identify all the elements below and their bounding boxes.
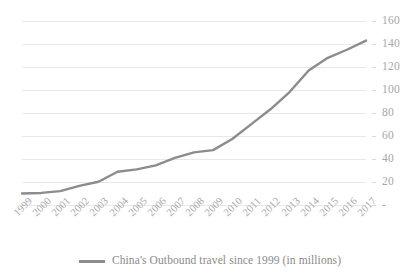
x-tick-label-1999: 1999 (12, 196, 35, 219)
legend-swatch-icon (79, 260, 105, 263)
chart-legend: China's Outbound travel since 1999 (in m… (0, 250, 420, 272)
y-axis: -20406080100120140160 (372, 0, 418, 226)
y-tick-mark-160 (372, 21, 376, 22)
y-tick-label-80: 80 (382, 107, 394, 119)
y-tick-label-60: 60 (382, 130, 394, 142)
y-tick-mark-120 (372, 67, 376, 68)
y-tick-label-20: 20 (382, 176, 394, 188)
y-tick-mark-140 (372, 44, 376, 45)
y-tick-mark-20 (372, 182, 376, 183)
y-tick-label-120: 120 (382, 61, 400, 73)
series-line-china-outbound-travel (22, 21, 366, 205)
y-tick-label-140: 140 (382, 38, 400, 50)
legend-label: China's Outbound travel since 1999 (in m… (112, 255, 341, 267)
y-tick-mark-40 (372, 159, 376, 160)
y-tick-label-100: 100 (382, 84, 400, 96)
series-path (22, 41, 366, 194)
plot-area (22, 21, 366, 205)
y-tick-label-40: 40 (382, 153, 394, 165)
line-chart: -20406080100120140160 199920002001200220… (0, 0, 420, 276)
y-tick-label-160: 160 (382, 15, 400, 27)
y-tick-mark-80 (372, 113, 376, 114)
y-tick-mark-100 (372, 90, 376, 91)
y-tick-mark-60 (372, 136, 376, 137)
x-axis: 1999200020012002200320042005200620072008… (0, 205, 420, 250)
